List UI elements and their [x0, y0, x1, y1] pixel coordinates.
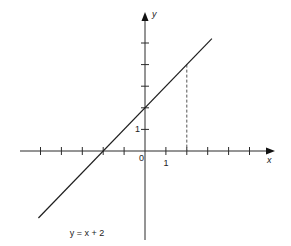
y-tick-label-1: 1	[135, 124, 140, 134]
x-tick-label-1: 1	[163, 158, 168, 168]
y-axis-label: y	[151, 9, 157, 19]
function-equation-label: y = x + 2	[70, 228, 105, 238]
x-axis-label: x	[266, 155, 272, 165]
function-graph: x y 0 1 1 y = x + 2	[0, 0, 291, 246]
origin-label: 0	[139, 153, 144, 163]
y-axis-arrowhead-icon	[142, 12, 149, 21]
x-axis-arrowhead-icon	[266, 148, 275, 155]
function-line-y-equals-x-plus-2	[38, 39, 211, 218]
